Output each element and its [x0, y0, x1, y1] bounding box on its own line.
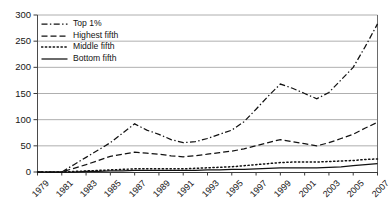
line-chart: 050100150200250300 197919811983198519871…: [0, 0, 391, 219]
y-tick-label: 50: [0, 140, 31, 151]
legend-item[interactable]: Middle fifth: [41, 41, 118, 53]
series-line-highest-fifth: [38, 122, 378, 172]
legend-line-swatch-icon: [41, 54, 68, 63]
legend-line-swatch-icon: [41, 19, 68, 28]
legend-label: Top 1%: [73, 19, 102, 28]
y-tick-label: 100: [0, 114, 31, 125]
y-tick-label: 200: [0, 61, 31, 72]
legend-label: Highest fifth: [73, 31, 118, 40]
legend-line-swatch-icon: [41, 31, 68, 40]
legend-label: Bottom fifth: [73, 54, 116, 63]
legend-item[interactable]: Bottom fifth: [41, 53, 118, 65]
y-tick-label: 300: [0, 9, 31, 20]
chart-legend: Top 1%Highest fifthMiddle fifthBottom fi…: [41, 18, 118, 64]
y-tick-label: 150: [0, 88, 31, 99]
legend-label: Middle fifth: [73, 42, 115, 51]
y-tick-label: 0: [0, 166, 31, 177]
y-tick-label: 250: [0, 35, 31, 46]
legend-item[interactable]: Highest fifth: [41, 30, 118, 42]
legend-item[interactable]: Top 1%: [41, 18, 118, 30]
legend-line-swatch-icon: [41, 42, 68, 51]
